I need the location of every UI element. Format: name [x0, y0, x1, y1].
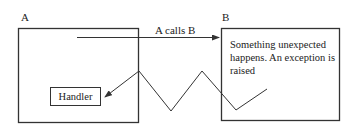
box-a-label: A — [21, 11, 29, 23]
exception-zigzag-arrow — [105, 71, 267, 111]
box-a — [19, 29, 139, 123]
call-arrow-label: A calls B — [155, 24, 195, 36]
box-b-text: Something unexpected happens. An excepti… — [230, 38, 336, 77]
handler-box: Handler — [50, 87, 101, 106]
box-b-label: B — [222, 11, 229, 23]
